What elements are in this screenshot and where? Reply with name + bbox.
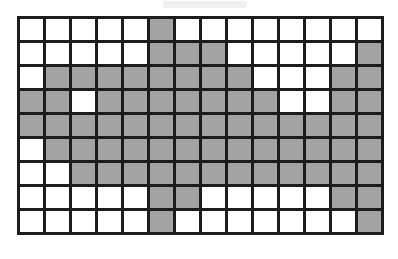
grid-cell[interactable] (202, 211, 228, 232)
grid-cell[interactable] (98, 187, 124, 211)
grid-cell[interactable] (20, 67, 46, 91)
grid-cell[interactable] (98, 211, 124, 232)
grid-cell[interactable] (332, 115, 358, 139)
grid-cell[interactable] (306, 43, 332, 67)
grid-cell[interactable] (20, 43, 46, 67)
grid-cell[interactable] (72, 67, 98, 91)
grid-cell[interactable] (306, 139, 332, 163)
grid-cell[interactable] (254, 115, 280, 139)
grid-cell[interactable] (150, 139, 176, 163)
grid-cell[interactable] (124, 163, 150, 187)
grid-cell[interactable] (124, 19, 150, 43)
grid-cell[interactable] (72, 163, 98, 187)
grid-cell[interactable] (98, 139, 124, 163)
grid-cell[interactable] (306, 115, 332, 139)
grid-cell[interactable] (358, 163, 381, 187)
grid-cell[interactable] (150, 187, 176, 211)
grid-cell[interactable] (228, 211, 254, 232)
grid-cell[interactable] (46, 115, 72, 139)
grid-cell[interactable] (358, 211, 381, 232)
grid-cell[interactable] (202, 91, 228, 115)
grid-cell[interactable] (150, 19, 176, 43)
grid-cell[interactable] (358, 67, 381, 91)
grid-cell[interactable] (176, 139, 202, 163)
grid-cell[interactable] (20, 139, 46, 163)
grid-cell[interactable] (124, 91, 150, 115)
grid-cell[interactable] (332, 19, 358, 43)
grid-cell[interactable] (72, 139, 98, 163)
grid-cell[interactable] (176, 43, 202, 67)
grid-cell[interactable] (202, 139, 228, 163)
grid-cell[interactable] (280, 139, 306, 163)
grid-cell[interactable] (150, 91, 176, 115)
grid-cell[interactable] (124, 67, 150, 91)
grid-cell[interactable] (254, 19, 280, 43)
grid-cell[interactable] (20, 115, 46, 139)
grid-cell[interactable] (176, 187, 202, 211)
grid-cell[interactable] (20, 19, 46, 43)
grid-cell[interactable] (20, 91, 46, 115)
grid-cell[interactable] (72, 211, 98, 232)
grid-cell[interactable] (46, 43, 72, 67)
grid-cell[interactable] (72, 187, 98, 211)
grid-cell[interactable] (306, 163, 332, 187)
grid-cell[interactable] (72, 115, 98, 139)
grid-cell[interactable] (280, 115, 306, 139)
grid-cell[interactable] (202, 115, 228, 139)
grid-cell[interactable] (358, 115, 381, 139)
grid-cell[interactable] (72, 19, 98, 43)
grid-cell[interactable] (98, 115, 124, 139)
grid-cell[interactable] (358, 19, 381, 43)
grid-cell[interactable] (228, 19, 254, 43)
grid-cell[interactable] (46, 91, 72, 115)
grid-cell[interactable] (280, 163, 306, 187)
grid-cell[interactable] (228, 139, 254, 163)
grid-cell[interactable] (202, 19, 228, 43)
grid-cell[interactable] (306, 211, 332, 232)
grid-cell[interactable] (280, 211, 306, 232)
grid-cell[interactable] (306, 67, 332, 91)
grid-cell[interactable] (280, 67, 306, 91)
grid-cell[interactable] (254, 187, 280, 211)
grid-cell[interactable] (228, 43, 254, 67)
grid-cell[interactable] (176, 67, 202, 91)
grid-cell[interactable] (358, 91, 381, 115)
grid-cell[interactable] (202, 67, 228, 91)
grid-cell[interactable] (46, 187, 72, 211)
grid-cell[interactable] (176, 19, 202, 43)
grid-cell[interactable] (124, 115, 150, 139)
grid-cell[interactable] (176, 211, 202, 232)
grid-cell[interactable] (254, 67, 280, 91)
grid-cell[interactable] (150, 67, 176, 91)
grid-cell[interactable] (124, 43, 150, 67)
grid-cell[interactable] (150, 163, 176, 187)
grid-cell[interactable] (98, 91, 124, 115)
grid-cell[interactable] (254, 43, 280, 67)
grid-cell[interactable] (228, 67, 254, 91)
grid-cell[interactable] (332, 187, 358, 211)
grid-cell[interactable] (202, 43, 228, 67)
grid-cell[interactable] (202, 163, 228, 187)
grid-cell[interactable] (20, 163, 46, 187)
grid-cell[interactable] (358, 139, 381, 163)
grid-cell[interactable] (254, 91, 280, 115)
grid-cell[interactable] (228, 115, 254, 139)
grid-cell[interactable] (98, 43, 124, 67)
grid-cell[interactable] (176, 115, 202, 139)
grid-cell[interactable] (358, 43, 381, 67)
grid-cell[interactable] (98, 19, 124, 43)
grid-cell[interactable] (306, 187, 332, 211)
grid-cell[interactable] (254, 163, 280, 187)
grid-cell[interactable] (280, 19, 306, 43)
grid-cell[interactable] (98, 163, 124, 187)
grid-cell[interactable] (124, 187, 150, 211)
grid-cell[interactable] (332, 139, 358, 163)
grid-cell[interactable] (280, 43, 306, 67)
grid-cell[interactable] (254, 211, 280, 232)
grid-cell[interactable] (280, 91, 306, 115)
grid-cell[interactable] (228, 91, 254, 115)
grid-cell[interactable] (332, 67, 358, 91)
grid-cell[interactable] (46, 211, 72, 232)
grid-cell[interactable] (202, 187, 228, 211)
grid-cell[interactable] (98, 67, 124, 91)
